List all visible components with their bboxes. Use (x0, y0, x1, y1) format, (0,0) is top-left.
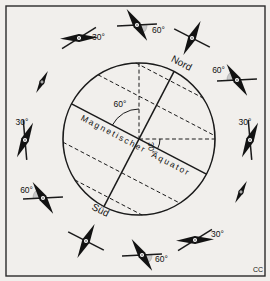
needle-angle-label: 30° (211, 229, 224, 239)
needle-angle-label: 30° (239, 117, 252, 127)
needle-angle-label: 30° (92, 32, 105, 42)
needle-pivot-dot (41, 81, 42, 82)
needle-pivot-dot (24, 139, 25, 140)
dip-needle-right-30: 30° (238, 117, 261, 160)
needle-pivot-dot (136, 24, 137, 25)
dip-needle-south-pole (68, 222, 104, 259)
south-label: Süd (90, 201, 111, 219)
dip-needle-left-30: 30° (13, 117, 36, 160)
needle-pivot-dot (85, 240, 86, 241)
needle-pivot-dot (194, 239, 195, 240)
inclination-diagram: Nord Süd Magnetischer Äquator 60° 30° 30… (0, 0, 270, 281)
dip-needle-lower-left-60: 60° (20, 180, 63, 216)
dip-needle-bottom-60: 60° (122, 237, 168, 273)
needle-pivot-dot (78, 37, 79, 38)
dip-needle-lower-right-30: 30° (176, 229, 224, 251)
axis-angle-arc (112, 109, 139, 125)
equator-angle-label: 30° (146, 142, 156, 155)
needle-angle-label: 60° (155, 254, 168, 264)
needle-angle-label: 60° (212, 65, 225, 75)
dip-needle-right-equator (233, 180, 249, 204)
dip-needle-left-equator (34, 70, 50, 94)
equator-angle-arc (158, 139, 160, 149)
needle-pivot-dot (240, 191, 241, 192)
needle-pivot-dot (236, 79, 237, 80)
axis-angle-label: 60° (114, 99, 127, 109)
credit-label: CC (253, 266, 263, 273)
magnetic-equator-label: Magnetischer Äquator (79, 113, 192, 178)
dip-needle-upper-right-60: 60° (212, 62, 257, 98)
globe: Nord Süd Magnetischer Äquator 60° 30° (63, 53, 215, 219)
dip-needle-top-60: 60° (117, 7, 165, 43)
needle-pivot-dot (191, 37, 192, 38)
needle-pivot-dot (141, 254, 142, 255)
north-label: Nord (169, 53, 193, 73)
needle-angle-label: 60° (20, 185, 33, 195)
magnetic-inclination-figure: Nord Süd Magnetischer Äquator 60° 30° 30… (0, 0, 270, 281)
needle-angle-label: 30° (16, 117, 29, 127)
needle-pivot-dot (249, 139, 250, 140)
dip-needle-north-pole (174, 19, 210, 56)
dip-needle-upper-left-30: 30° (60, 27, 105, 48)
needle-pivot-dot (42, 197, 43, 198)
needle-angle-label: 60° (152, 25, 165, 35)
